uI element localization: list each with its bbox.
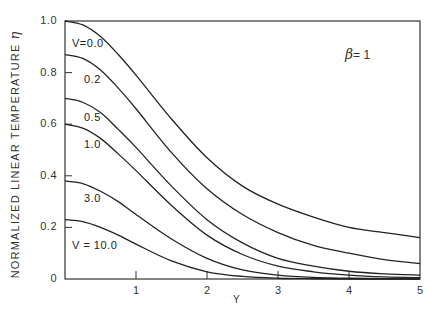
curve-label: 0.5: [84, 111, 101, 123]
line-chart: [0, 0, 437, 319]
beta-value: = 1: [353, 48, 370, 62]
x-tick-label: 4: [346, 284, 353, 296]
y-tick-label: 1.0: [40, 14, 57, 26]
curve-label: V = 10.0: [72, 239, 117, 251]
y-axis-title: NORMALIZED LINEAR TEMPERATUREη: [7, 32, 22, 279]
y-tick-label: 0.6: [40, 117, 57, 129]
beta-annotation: β= 1: [345, 46, 370, 62]
curve-v-0-2: [65, 55, 420, 264]
y-tick-label: 0.4: [40, 169, 57, 181]
y-axis-title-text: NORMALIZED LINEAR TEMPERATURE: [9, 43, 21, 278]
x-tick-label: 3: [275, 284, 282, 296]
eta-symbol: η: [7, 32, 22, 40]
curve-label: 0.2: [84, 73, 101, 85]
y-tick-label: 0.2: [40, 220, 57, 232]
y-tick-label: 0.8: [40, 66, 57, 78]
x-axis-title: Y: [233, 294, 240, 305]
curve-label: V=0.0: [72, 37, 104, 49]
curve-label: 1.0: [84, 138, 101, 150]
curve-label: 3.0: [84, 192, 101, 204]
beta-symbol: β: [345, 46, 353, 62]
x-tick-label: 5: [417, 284, 424, 296]
x-tick-label: 2: [204, 284, 211, 296]
y-tick-label: 0: [50, 272, 57, 284]
x-tick-label: 1: [133, 284, 140, 296]
y-axis-title-wrap: NORMALIZED LINEAR TEMPERATUREη: [4, 30, 24, 280]
